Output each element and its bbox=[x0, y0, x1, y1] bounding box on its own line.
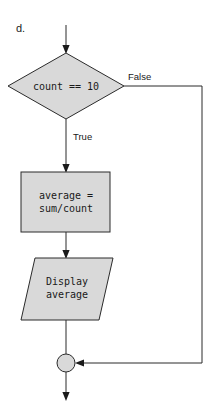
output-node-text-line2: average bbox=[46, 289, 88, 300]
flowchart-diagram: d. count == 10 False True average = sum/… bbox=[0, 0, 219, 410]
true-branch-label: True bbox=[73, 131, 92, 142]
connector-node-shape bbox=[57, 354, 75, 372]
process-node-text-line1: average = bbox=[39, 190, 93, 201]
process-node-text-line2: sum/count bbox=[39, 203, 93, 214]
part-label: d. bbox=[16, 22, 25, 34]
false-branch-arrowhead bbox=[75, 359, 84, 366]
exit-arrowhead bbox=[62, 392, 69, 401]
false-branch-label: False bbox=[128, 71, 151, 82]
output-node-text-line1: Display bbox=[46, 276, 88, 287]
decision-node-text: count == 10 bbox=[33, 81, 99, 92]
process-node-shape bbox=[21, 172, 110, 232]
flowchart-canvas: d. count == 10 False True average = sum/… bbox=[0, 0, 219, 410]
